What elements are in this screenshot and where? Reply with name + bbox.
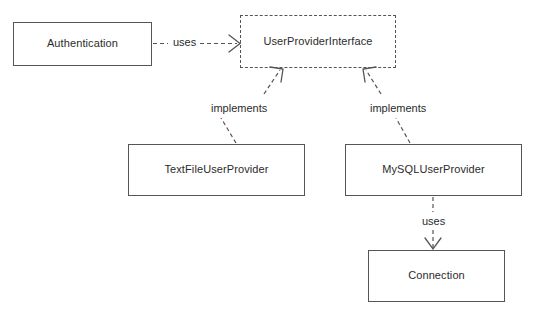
uml-class-diagram: UserProviderInterface --> UserProviderIn… bbox=[0, 0, 536, 320]
arrowhead-open-right-icon bbox=[229, 35, 240, 52]
node-mysql-user-provider[interactable]: MySQLUserProvider bbox=[345, 144, 522, 196]
arrowhead-open-upright-icon bbox=[270, 67, 283, 82]
node-user-provider-interface-label: UserProviderInterface bbox=[263, 35, 372, 48]
node-textfile-user-provider-label: TextFileUserProvider bbox=[164, 163, 268, 176]
edge-line-mysql-implements-lower bbox=[396, 118, 410, 143]
edge-label-mysql-uses-connection: uses bbox=[420, 216, 447, 227]
arrowhead-open-upleft-icon bbox=[363, 67, 376, 82]
node-connection[interactable]: Connection bbox=[368, 250, 505, 302]
arrowhead-open-down-icon bbox=[425, 238, 441, 249]
edge-label-textfile-implements: implements bbox=[209, 103, 269, 114]
edge-label-mysql-implements: implements bbox=[368, 103, 428, 114]
edge-line-textfile-implements-lower bbox=[221, 118, 236, 143]
edge-label-auth-uses-interface: uses bbox=[171, 37, 198, 48]
node-authentication-label: Authentication bbox=[47, 37, 118, 50]
edge-line-textfile-implements-upper bbox=[264, 70, 280, 94]
node-mysql-user-provider-label: MySQLUserProvider bbox=[382, 163, 485, 176]
node-textfile-user-provider[interactable]: TextFileUserProvider bbox=[128, 144, 305, 196]
node-user-provider-interface[interactable]: UserProviderInterface bbox=[240, 15, 396, 68]
node-authentication[interactable]: Authentication bbox=[13, 22, 152, 66]
node-connection-label: Connection bbox=[408, 269, 465, 282]
edge-line-mysql-implements-upper bbox=[366, 70, 381, 94]
